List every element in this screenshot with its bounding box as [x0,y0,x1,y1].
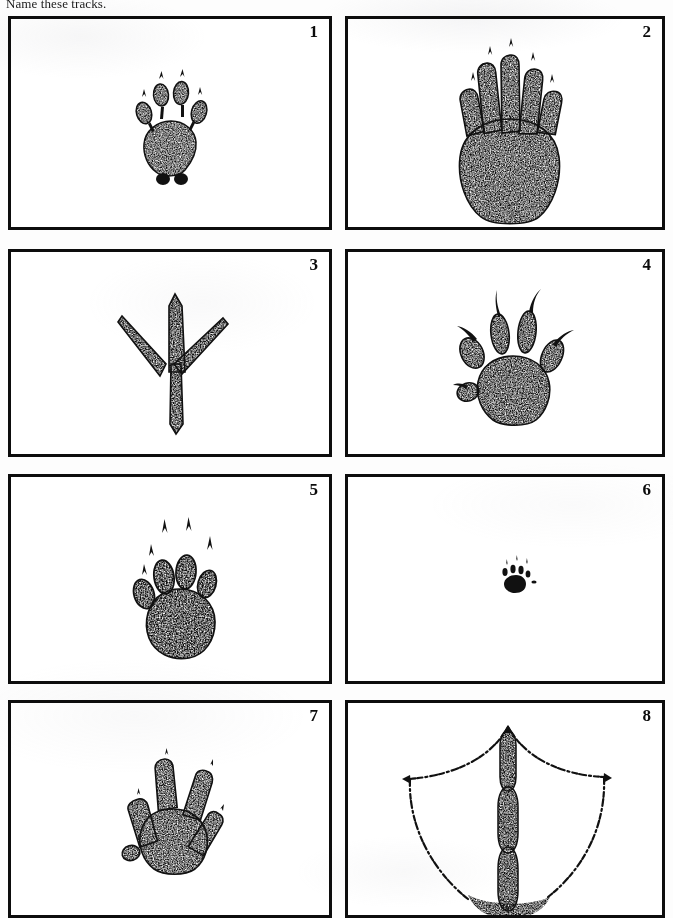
track-illustration-1 [11,19,329,227]
track-cell-3[interactable]: 3 [8,249,332,457]
tracks-grid: 1 [0,0,673,918]
track-illustration-7 [11,703,329,915]
track-cell-4[interactable]: 4 [345,249,665,457]
track-cell-8[interactable]: 8 [345,700,665,918]
track-cell-2[interactable]: 2 [345,16,665,230]
track-cell-1[interactable]: 1 [8,16,332,230]
track-illustration-6 [348,477,662,681]
track-cell-5[interactable]: 5 [8,474,332,684]
track-illustration-8 [348,703,662,915]
track-cell-6[interactable]: 6 [345,474,665,684]
track-illustration-3 [11,252,329,454]
track-illustration-5 [11,477,329,681]
track-cell-7[interactable]: 7 [8,700,332,918]
track-illustration-4 [348,252,662,454]
track-illustration-2 [348,19,662,227]
